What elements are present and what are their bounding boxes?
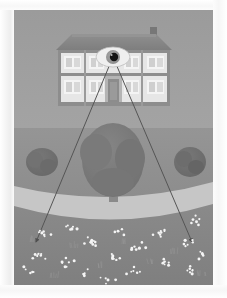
flower-dot xyxy=(44,258,46,260)
flower-dot xyxy=(31,257,34,260)
flower-dot xyxy=(189,267,192,270)
flower-dot xyxy=(73,259,76,262)
flower-dot xyxy=(64,265,67,268)
flower-dot xyxy=(93,240,95,242)
flower-dot xyxy=(184,245,186,247)
flower-dot xyxy=(192,218,195,221)
flower-dot xyxy=(186,269,188,271)
flower-dot xyxy=(144,246,147,249)
flower-dot xyxy=(184,239,187,242)
page-root xyxy=(0,0,227,298)
flower-dot xyxy=(152,234,155,237)
flower-dot xyxy=(29,272,31,274)
flower-dot xyxy=(125,273,128,276)
flower-dot xyxy=(40,254,42,256)
flower-dot xyxy=(25,268,27,270)
flower-dot xyxy=(117,230,120,233)
flower-dot xyxy=(160,236,162,238)
house-trim-right xyxy=(167,50,170,106)
flower-dot xyxy=(197,224,200,227)
watching-eye-icon xyxy=(96,47,130,67)
paper-margin-bottom xyxy=(0,285,227,298)
flower-dot xyxy=(68,261,70,263)
flower-dot xyxy=(114,278,117,281)
flower-dot xyxy=(83,274,86,277)
flower-dot xyxy=(34,253,37,256)
paper-margin-right xyxy=(213,0,227,298)
roof-ridge xyxy=(72,34,156,37)
flower-dot xyxy=(132,270,134,272)
flower-dot xyxy=(72,226,74,228)
flower-dot xyxy=(39,230,41,232)
bush-left xyxy=(26,148,58,176)
flower-dot xyxy=(191,239,193,241)
window-lower-1 xyxy=(64,80,81,94)
flower-dot xyxy=(195,220,198,223)
flower-dot xyxy=(111,257,114,260)
flower-dot xyxy=(136,272,138,274)
flower-dot xyxy=(159,233,162,236)
flower-dot xyxy=(168,262,170,264)
flower-dot xyxy=(119,257,121,259)
eye-highlight xyxy=(110,54,112,56)
flower-dot xyxy=(36,255,38,257)
scene-illustration xyxy=(14,10,213,285)
window-upper-1 xyxy=(64,56,81,69)
window-upper-4 xyxy=(147,56,164,69)
tree-canopy-lobe-1 xyxy=(80,134,112,170)
flower-dot xyxy=(65,225,67,227)
flower-dot xyxy=(198,258,201,261)
flower-dot xyxy=(114,231,117,234)
flower-dot xyxy=(130,248,133,251)
flower-dot xyxy=(50,233,53,236)
flower-dot xyxy=(87,268,89,270)
flower-dot xyxy=(187,244,189,246)
house-trim-mid xyxy=(58,73,170,76)
flower-dot xyxy=(83,242,86,245)
flower-dot xyxy=(161,262,164,265)
paper-margin-top xyxy=(0,0,227,10)
illustration-frame xyxy=(14,10,213,285)
house-trim-v1 xyxy=(84,50,86,106)
window-lower-2 xyxy=(89,80,104,94)
flower-dot xyxy=(183,243,186,246)
flower-dot xyxy=(89,241,92,244)
flower-dot xyxy=(115,259,117,261)
front-door xyxy=(105,76,122,102)
flower-dot xyxy=(192,241,194,243)
flower-dot xyxy=(190,222,193,225)
house-trim-bottom xyxy=(58,102,170,106)
flower-dot xyxy=(163,229,165,231)
flower-dot xyxy=(100,277,102,279)
flower-dot xyxy=(189,271,191,273)
flower-dot xyxy=(33,271,35,273)
flower-dot xyxy=(138,247,141,250)
tree-canopy-lobe-3 xyxy=(92,168,134,196)
flower-dot xyxy=(198,218,200,220)
flower-dot xyxy=(135,248,138,251)
flower-dot xyxy=(107,279,110,282)
flower-dot xyxy=(94,244,97,247)
flower-dot xyxy=(141,241,144,244)
flower-dot xyxy=(201,252,204,255)
flower-dot xyxy=(42,230,45,233)
flower-dot xyxy=(133,245,135,247)
flower-dot xyxy=(111,253,113,255)
flower-dot xyxy=(139,271,141,273)
flower-dot xyxy=(191,270,193,272)
flower-dot xyxy=(69,228,72,231)
flower-dot xyxy=(61,262,63,264)
flower-dot xyxy=(130,271,132,273)
flower-dot xyxy=(199,251,201,253)
paper-margin-left xyxy=(0,0,14,298)
bush-right xyxy=(174,147,206,177)
house-trim-v2 xyxy=(141,50,143,106)
flower-dot xyxy=(162,258,165,261)
flower-dot xyxy=(87,236,89,238)
flower-dot xyxy=(22,265,25,268)
flower-dot xyxy=(65,257,68,260)
flower-dot xyxy=(75,227,78,230)
flower-dot xyxy=(123,234,126,237)
flower-dot xyxy=(105,277,107,279)
flower-dot xyxy=(167,264,170,267)
